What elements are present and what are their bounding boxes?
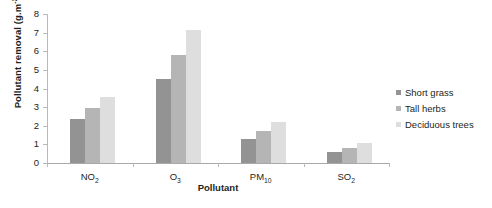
y-tick: 8 [43, 14, 47, 15]
x-category-label-base: NO [81, 171, 95, 182]
y-tick-label: 3 [19, 101, 39, 112]
x-tick [218, 163, 219, 167]
bar [156, 79, 171, 163]
y-tick-label: 6 [19, 45, 39, 56]
legend-label: Tall herbs [405, 103, 446, 114]
y-tick: 1 [43, 144, 47, 145]
plot-area: 012345678 NO2O3PM10SO2 [47, 14, 389, 163]
legend-swatch-icon [396, 106, 401, 111]
x-tick [47, 163, 48, 167]
y-tick: 4 [43, 89, 47, 90]
bar [186, 30, 201, 163]
bar [342, 148, 357, 163]
y-tick-label: 1 [19, 138, 39, 149]
x-axis-title: Pollutant [47, 182, 389, 193]
y-axis-title-sup1: -2 [11, 0, 18, 4]
bar [357, 143, 372, 163]
bar [327, 152, 342, 163]
legend: Short grassTall herbsDeciduous trees [396, 84, 474, 132]
bar [171, 55, 186, 163]
y-tick: 3 [43, 107, 47, 108]
legend-label: Short grass [405, 87, 454, 98]
bar [85, 108, 100, 163]
x-category-label-base: PM [250, 171, 264, 182]
y-tick: 5 [43, 70, 47, 71]
y-tick-label: 4 [19, 83, 39, 94]
y-tick-label: 0 [19, 157, 39, 168]
y-tick-label: 5 [19, 64, 39, 75]
y-tick: 2 [43, 126, 47, 127]
y-tick-label: 2 [19, 120, 39, 131]
bar [256, 131, 271, 163]
y-tick: 7 [43, 33, 47, 34]
bar [241, 139, 256, 163]
legend-item[interactable]: Deciduous trees [396, 116, 474, 132]
legend-label: Deciduous trees [405, 119, 474, 130]
legend-swatch-icon [396, 90, 401, 95]
bar [100, 97, 115, 163]
legend-item[interactable]: Short grass [396, 84, 474, 100]
bar [271, 122, 286, 163]
bar-chart-figure: Pollutant removal (g.m-2.y-1) 012345678 … [0, 0, 492, 208]
x-tick [304, 163, 305, 167]
legend-swatch-icon [396, 122, 401, 127]
y-axis-line [47, 14, 48, 163]
bar [70, 119, 85, 163]
legend-item[interactable]: Tall herbs [396, 100, 474, 116]
y-tick: 6 [43, 51, 47, 52]
x-tick [389, 163, 390, 167]
y-tick-label: 7 [19, 27, 39, 38]
y-tick-label: 8 [19, 8, 39, 19]
x-category-label-base: SO [337, 171, 351, 182]
x-tick [133, 163, 134, 167]
